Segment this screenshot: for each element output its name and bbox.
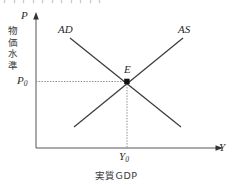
diagram-canvas xyxy=(0,0,232,185)
ad-as-diagram: ＋＋＋＋＋＋＋＋＋＋＋ P P0 Y Y0 E AD AS 物価水準 実質GDP xyxy=(0,0,232,185)
y-axis-arrowhead xyxy=(33,12,39,20)
y-axis-symbol-label: P xyxy=(21,10,28,21)
ad-curve-label: AD xyxy=(58,24,73,35)
p0-base: P xyxy=(17,74,24,86)
y0-subscript: 0 xyxy=(125,155,129,164)
p0-subscript: 0 xyxy=(24,79,28,88)
equilibrium-marker xyxy=(124,79,129,84)
y-axis-caption: 物価水準 xyxy=(4,26,17,72)
y0-tick-label: Y0 xyxy=(119,151,129,164)
p0-tick-label: P0 xyxy=(17,75,27,88)
equilibrium-label: E xyxy=(124,64,131,75)
x-axis-symbol-label: Y xyxy=(219,142,225,153)
x-axis-caption: 実質GDP xyxy=(0,168,232,182)
as-curve-label: AS xyxy=(178,24,190,35)
